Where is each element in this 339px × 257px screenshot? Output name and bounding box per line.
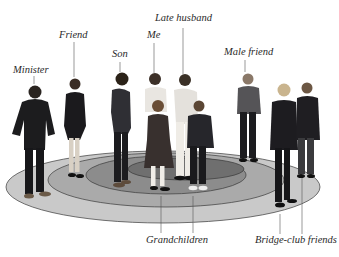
- label-male-friend: Male friend: [224, 46, 273, 58]
- diagram-canvas: [0, 0, 339, 257]
- social-circles-diagram: Minister Friend Son Me Late husband Male…: [0, 0, 339, 257]
- label-minister: Minister: [13, 64, 49, 76]
- person-bridge-club-friend-2: [296, 83, 320, 179]
- person-son: [111, 73, 131, 188]
- label-grandchildren: Grandchildren: [146, 234, 208, 246]
- person-male-friend: [237, 74, 261, 163]
- label-friend: Friend: [59, 29, 88, 41]
- label-late-husband: Late husband: [155, 12, 212, 24]
- label-son: Son: [112, 48, 128, 60]
- label-bridge-club-friends: Bridge-club friends: [255, 234, 337, 246]
- label-me: Me: [147, 29, 160, 41]
